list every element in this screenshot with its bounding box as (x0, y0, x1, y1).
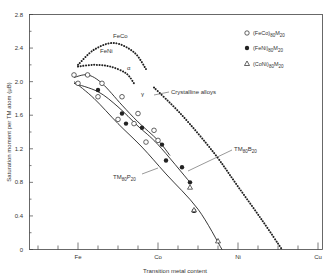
y-axis (30, 15, 34, 250)
open-circle-marker-icon (156, 138, 161, 143)
open-triangle-marker-icon (188, 185, 193, 189)
annotation-alpha: α (127, 65, 131, 71)
x-tick-label-co: Co (154, 254, 162, 260)
x-axis-title: Transition metal content (143, 268, 207, 274)
y-tick-label: 0.4 (15, 213, 24, 219)
open-circle-marker-icon (120, 94, 125, 99)
open-circle-marker-icon (85, 73, 90, 78)
y-tick-label: 2.8 (15, 12, 24, 18)
annotation-tm80p20: TM80P20 (113, 174, 136, 182)
x-tick-label-fe: Fe (74, 254, 82, 260)
y-tick-label: 0.8 (15, 179, 24, 185)
legend-label-feni: (FeNi)80M20 (253, 45, 283, 53)
open-circle-marker-icon (100, 81, 105, 86)
legend-label-feco: (FeCo)80M20 (253, 30, 285, 38)
tm80p20-pointer (142, 168, 158, 174)
series-line (74, 83, 190, 182)
chart: 00.40.81.21.62.02.42.8 FeCoNiCu Transiti… (0, 0, 330, 280)
legend-open-circle-icon (245, 31, 249, 35)
annotation-crystalline: Crystalline alloys (171, 89, 216, 95)
filled-circle-marker-icon (180, 165, 184, 169)
y-tick-label: 2.0 (15, 79, 24, 85)
x-tick-label-ni: Ni (235, 254, 241, 260)
legend-label-coni: (CoNi)80M20 (253, 61, 284, 69)
open-circle-marker-icon (96, 94, 101, 99)
filled-circle-marker-icon (124, 121, 128, 125)
filled-circle-marker-icon (160, 142, 164, 146)
legend-filled-circle-icon (245, 46, 249, 50)
open-circle-marker-icon (72, 73, 77, 78)
legend: (FeCo)80M20 (FeNi)80M20 (CoNi)80M20 (245, 30, 286, 69)
annotation-gamma: γ (141, 91, 144, 97)
y-tick-labels: 00.40.81.21.62.02.42.8 (15, 12, 24, 253)
open-circle-marker-icon (132, 121, 137, 126)
open-circle-marker-icon (76, 81, 81, 86)
y-tick-label: 2.4 (15, 45, 24, 51)
y-tick-label: 1.6 (15, 112, 24, 118)
filled-circle-marker-icon (188, 180, 192, 184)
open-circle-marker-icon (152, 128, 157, 133)
y-tick-label: 0 (20, 247, 24, 253)
annotation-tm80b20: TM80B20 (234, 146, 257, 154)
filled-circle-marker-icon (164, 158, 168, 162)
filled-circle-marker-icon (140, 126, 144, 130)
x-axis (38, 243, 318, 250)
x-tick-label-cu: Cu (314, 254, 322, 260)
y-axis-title: Saturation moment per TM atom (μB) (6, 82, 12, 181)
annotation-feni: FeNi (100, 48, 113, 54)
y-tick-label: 1.2 (15, 146, 24, 152)
annotation-feco: FeCo (113, 33, 128, 39)
series-line (154, 88, 282, 250)
open-circle-marker-icon (116, 117, 121, 122)
legend-open-triangle-icon (245, 61, 250, 66)
x-tick-labels: FeCoNiCu (74, 254, 321, 260)
filled-circle-marker-icon (120, 111, 124, 115)
open-circle-marker-icon (144, 140, 149, 145)
open-circle-marker-icon (136, 111, 141, 116)
filled-circle-marker-icon (96, 88, 100, 92)
